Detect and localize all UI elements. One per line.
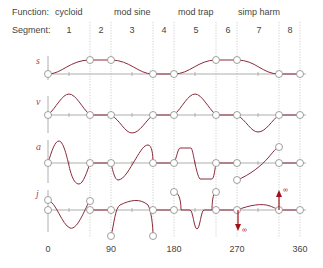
infinity-label-down: ∞ (242, 226, 247, 233)
infinity-label-up: ∞ (283, 186, 288, 193)
boundary-markers (45, 57, 304, 240)
cam-motion-diagram (0, 0, 323, 268)
j-curve (48, 200, 90, 228)
a-curve (48, 141, 237, 184)
